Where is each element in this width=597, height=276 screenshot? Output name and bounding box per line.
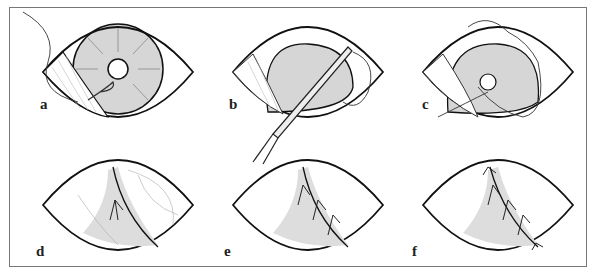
panel-label-a: a xyxy=(40,96,48,113)
panel-label-e: e xyxy=(224,243,231,260)
panel-label-d: d xyxy=(36,243,44,260)
panel-a-eye xyxy=(23,12,193,117)
panel-b-eye xyxy=(233,27,383,164)
panel-d-eye xyxy=(43,160,193,250)
panel-label-b: b xyxy=(229,96,237,113)
panel-label-f: f xyxy=(412,243,417,260)
panel-c-eye xyxy=(423,21,573,117)
panel-e-eye xyxy=(233,160,383,250)
surgical-steps-illustration xyxy=(0,0,597,276)
panel-label-c: c xyxy=(422,96,429,113)
panel-f-eye xyxy=(423,160,573,250)
